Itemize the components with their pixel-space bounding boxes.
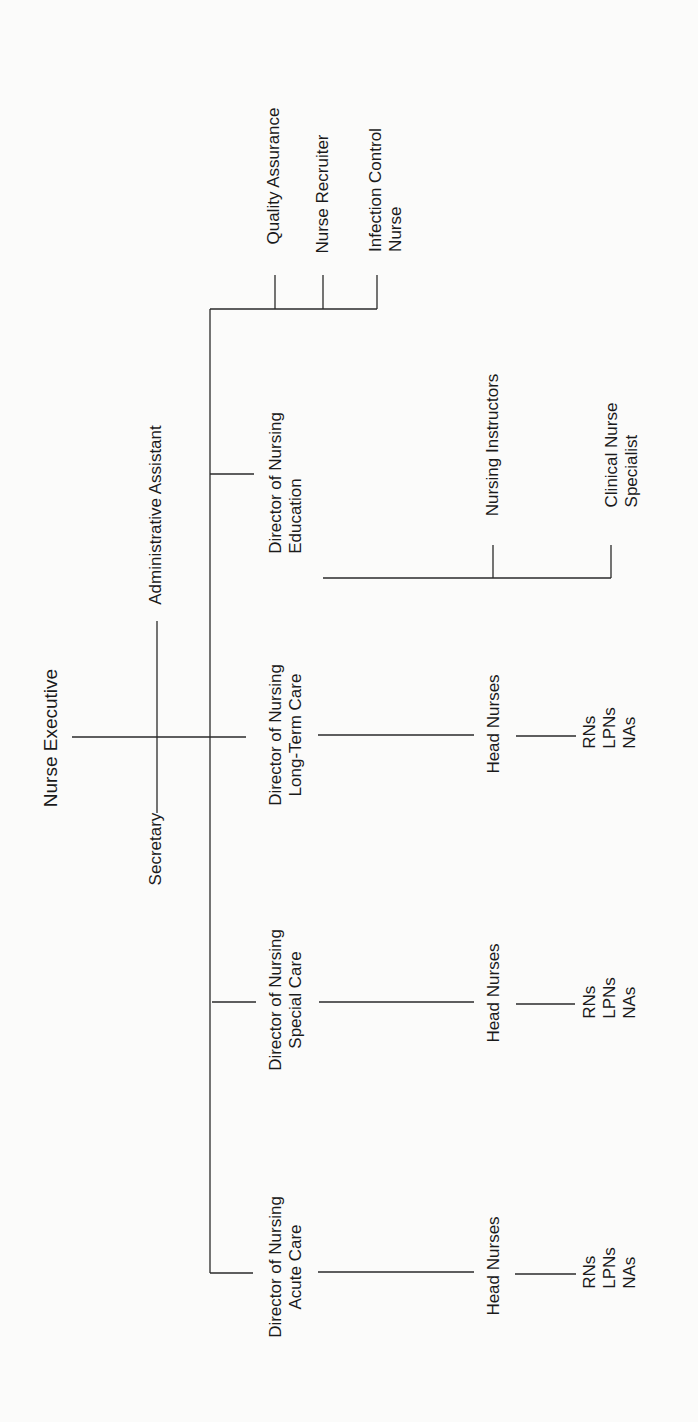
node-quality-assurance: Quality Assurance [264, 107, 284, 244]
node-administrative-assistant: Administrative Assistant [146, 425, 166, 605]
node-staff-special: RNs LPNs NAs [580, 977, 640, 1019]
node-secretary: Secretary [146, 813, 166, 886]
node-director-education: Director of Nursing Education [266, 412, 306, 554]
node-director-special-care: Director of Nursing Special Care [266, 929, 306, 1071]
node-director-acute-care: Director of Nursing Acute Care [266, 1196, 306, 1338]
node-clinical-nurse-specialist: Clinical Nurse Specialist [602, 403, 642, 508]
node-director-long-term-care: Director of Nursing Long-Term Care [266, 664, 306, 806]
node-nurse-executive: Nurse Executive [41, 669, 61, 807]
node-head-nurses-long-term: Head Nurses [484, 674, 504, 773]
node-head-nurses-acute: Head Nurses [484, 1216, 504, 1315]
node-nurse-recruiter: Nurse Recruiter [313, 134, 333, 253]
node-staff-acute: RNs LPNs NAs [580, 1247, 640, 1289]
node-staff-long-term: RNs LPNs NAs [580, 707, 640, 749]
node-head-nurses-special: Head Nurses [484, 943, 504, 1042]
node-nursing-instructors: Nursing Instructors [483, 374, 503, 517]
node-infection-control-nurse: Infection Control Nurse [366, 128, 406, 252]
